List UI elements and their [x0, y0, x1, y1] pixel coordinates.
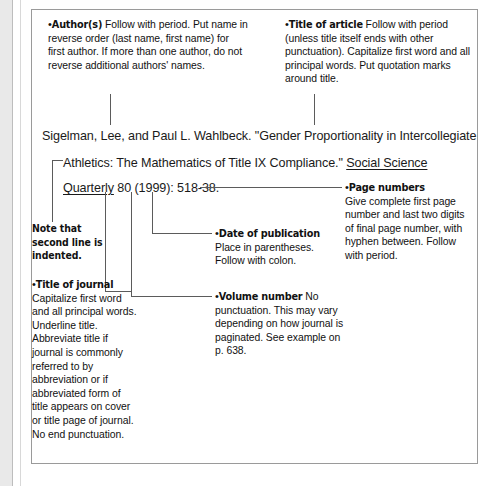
callout-page-numbers: •Page numbers Give complete first page n…: [345, 181, 471, 263]
callout-authors-head: Author(s): [52, 18, 102, 31]
callout-page-numbers-body: Give complete first page number and last…: [345, 196, 464, 261]
callout-date-of-publication-body: Place in parentheses. Follow with colon.: [215, 242, 314, 267]
citation-volume-date-pages: 80 (1999): 518-38.: [114, 181, 219, 195]
citation-line-1: Sigelman, Lee, and Paul L. Wahlbeck. "Ge…: [42, 128, 476, 144]
citation-journal-title-part-1: Social Science: [346, 156, 427, 170]
leader-line-indent-note: [52, 192, 53, 222]
callout-title-of-journal: •Title of journal Capitalize first word …: [32, 278, 137, 441]
leader-line-title-of-article: [314, 94, 315, 125]
citation-line-2: Athletics: The Mathematics of Title IX C…: [63, 155, 427, 171]
page-gutter-inner-line: [20, 0, 21, 486]
callout-authors: •Author(s) Follow with period. Put name …: [48, 18, 248, 72]
note-second-line-indent: Note that second line is indented.: [32, 222, 112, 263]
citation-line-1-text: Sigelman, Lee, and Paul L. Wahlbeck. "Ge…: [42, 129, 476, 143]
leader-line-page-numbers: [200, 187, 342, 188]
indent-elbow-bracket: [52, 160, 63, 193]
leader-line-date-horizontal: [152, 233, 212, 234]
citation-line-2-text: Athletics: The Mathematics of Title IX C…: [63, 156, 346, 170]
callout-volume-number: •Volume number No punctuation. This may …: [215, 290, 347, 358]
callout-title-of-article: •Title of article Follow with period (un…: [285, 18, 471, 86]
leader-line-title-of-journal-vertical: [105, 192, 106, 292]
callout-title-of-journal-body: Capitalize first word and all principal …: [32, 293, 137, 440]
note-second-line-indent-text: Note that second line is indented.: [32, 222, 103, 261]
callout-title-of-journal-head: Title of journal: [36, 278, 113, 291]
callout-page-numbers-head: Page numbers: [349, 181, 425, 194]
callout-date-of-publication-head: Date of publication: [219, 227, 320, 240]
page-gutter-edge-line: [12, 0, 13, 486]
page-gutter-shading: [0, 0, 12, 486]
leader-line-date-vertical: [152, 192, 153, 234]
callout-title-of-article-head: Title of article: [289, 18, 363, 31]
citation-line-3: Quarterly 80 (1999): 518-38.: [63, 180, 219, 196]
figure-page: •Author(s) Follow with period. Put name …: [0, 0, 491, 486]
callout-volume-number-head: Volume number: [219, 290, 303, 303]
leader-line-volume-horizontal: [131, 296, 212, 297]
citation-journal-title-part-2: Quarterly: [63, 181, 114, 195]
leader-line-authors: [110, 94, 111, 125]
callout-date-of-publication: •Date of publication Place in parenthese…: [215, 227, 345, 268]
